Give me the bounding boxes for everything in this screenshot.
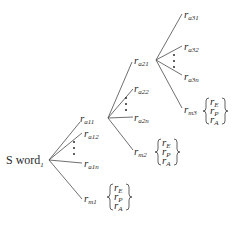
node-ra21: ra21 [134,54,149,68]
ra11-edges [108,62,133,150]
node-ra12: ra12 [84,127,99,141]
node-rm1: rm1 [84,192,97,206]
node-ra3n: ra3n [184,70,199,84]
node-ra32: ra32 [184,40,199,54]
node-ra22: ra22 [134,82,149,96]
ra21-edges [156,14,182,108]
node-ra2n: ra2n [134,111,149,125]
brace-group-m2: rE rP rA [155,136,180,168]
ellipsis-level3 [173,54,175,68]
root-label: S word [6,153,40,167]
root-edges [49,122,82,199]
ellipsis-level1 [73,141,75,155]
tree-diagram: S word1 ra11 ra12 ra1n rm1 rE rP rA ra21… [0,0,239,228]
brace-group-m3: rE rP rA [203,95,228,127]
node-ra1n: ra1n [84,157,99,171]
brace-group-m1: rE rP rA [107,181,132,213]
node-rm2: rm2 [134,145,147,159]
root-node: S word1 [6,153,44,169]
ellipsis-level2 [125,97,127,111]
node-ra31: ra31 [184,8,199,22]
node-ra11: ra11 [80,112,94,126]
node-rm3: rm3 [184,103,197,117]
